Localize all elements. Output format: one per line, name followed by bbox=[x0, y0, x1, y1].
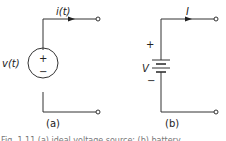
terminal-bottom-b bbox=[214, 110, 218, 114]
current-arrow-b bbox=[185, 17, 192, 22]
panel-label-a: (a) bbox=[46, 118, 60, 129]
terminal-top-a bbox=[96, 17, 100, 21]
top-wire-a bbox=[43, 19, 97, 50]
figure-caption: Fig. 1.11 (a) ideal voltage source; (b) … bbox=[1, 136, 181, 141]
current-arrow-a bbox=[68, 17, 75, 22]
top-wire-b bbox=[161, 19, 215, 60]
terminal-top-b bbox=[214, 17, 218, 21]
panel-label-b: (b) bbox=[165, 118, 179, 129]
bottom-wire-a bbox=[43, 92, 97, 112]
minus-sign-a: − bbox=[39, 66, 47, 77]
current-label-b: I bbox=[186, 6, 189, 17]
terminal-bottom-a bbox=[96, 110, 100, 114]
source-label-a: v(t) bbox=[2, 58, 20, 69]
source-label-b: V bbox=[142, 63, 150, 74]
current-label-a: i(t) bbox=[56, 6, 71, 17]
plus-sign-a: + bbox=[39, 53, 47, 64]
minus-sign-b: − bbox=[147, 75, 155, 86]
bottom-wire-b bbox=[161, 72, 215, 112]
plus-sign-b: + bbox=[146, 39, 154, 50]
panel-b bbox=[152, 17, 218, 114]
circuit-diagram: i(t) v(t) + − (a) I V + − (b) Fig. 1.11 … bbox=[0, 0, 226, 141]
